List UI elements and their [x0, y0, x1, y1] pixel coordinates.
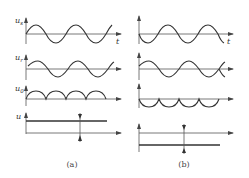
down-arrow-icon	[78, 114, 82, 119]
time-label: t	[116, 37, 120, 46]
row-ur-a: ur	[15, 53, 121, 80]
time-label: t	[227, 37, 231, 46]
rectified-wave	[26, 91, 106, 99]
axis-label-u0: u0	[15, 84, 24, 94]
down-arrow-icon	[182, 125, 186, 130]
rectified-wave	[139, 99, 219, 107]
caption-a: (a)	[66, 160, 77, 169]
axis-label-ur: ur	[15, 53, 23, 63]
axis-label-us: us	[15, 16, 23, 26]
row-ur-b	[139, 53, 233, 80]
row-u-b	[139, 124, 233, 154]
panel-b: t (b)	[139, 16, 233, 169]
row-us-b: t	[139, 16, 233, 46]
axis-label-u: u	[16, 112, 21, 121]
row-u0-b	[139, 84, 233, 108]
up-arrow-icon	[182, 148, 186, 153]
row-u-a: u	[16, 112, 121, 142]
row-u0-a: u0	[15, 84, 121, 106]
waveform-diagram: us t ur u0 u (a)	[0, 0, 249, 178]
panel-a: us t ur u0 u (a)	[15, 16, 121, 169]
row-us-a: us t	[15, 16, 121, 46]
up-arrow-icon	[78, 135, 82, 141]
caption-b: (b)	[178, 160, 189, 169]
